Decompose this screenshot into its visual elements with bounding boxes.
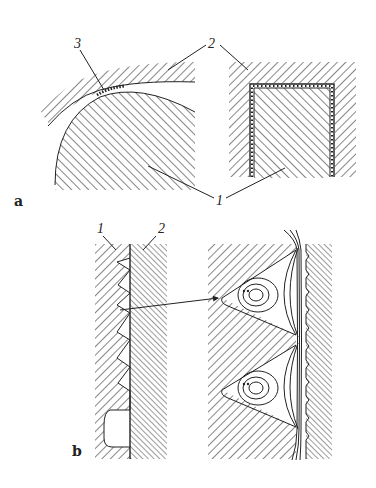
label-part-3: 3 bbox=[73, 36, 81, 51]
panel-b-label-part-2: 2 bbox=[158, 221, 165, 236]
panel-b-flat-body bbox=[130, 244, 167, 459]
panel-a-base-body-curved bbox=[55, 92, 195, 190]
panel-a-label: a bbox=[14, 193, 23, 209]
panel-b-serrated-body bbox=[95, 244, 130, 459]
panel-b: 1 2 bbox=[72, 221, 332, 460]
panel-a-base-body-rect bbox=[250, 84, 334, 178]
panel-b-enlarged-cavity-body bbox=[208, 244, 296, 459]
panel-b-label-part-1: 1 bbox=[97, 221, 104, 236]
panel-b-label: b bbox=[72, 443, 82, 459]
label-part-1: 1 bbox=[216, 193, 223, 208]
diagram-canvas: 3 2 1 a 1 2 bbox=[0, 0, 376, 488]
panel-b-enlarged-flat-body bbox=[306, 244, 332, 459]
panel-a: 3 2 1 a bbox=[14, 36, 356, 209]
label-part-2: 2 bbox=[208, 36, 215, 51]
